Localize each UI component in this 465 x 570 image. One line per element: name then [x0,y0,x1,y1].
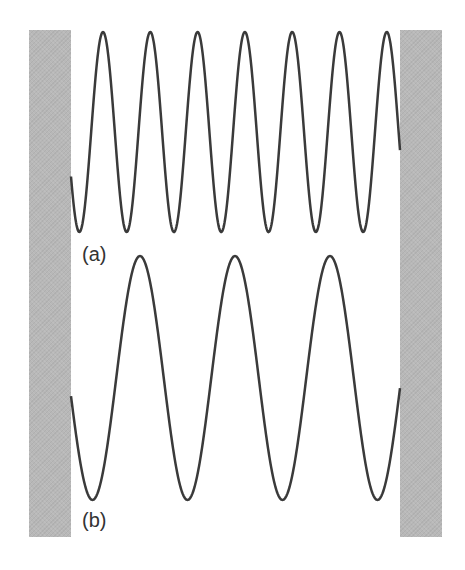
wave-b [71,256,400,500]
waves-canvas [0,0,465,570]
label-b: (b) [82,509,106,532]
wave-a [71,32,400,232]
label-a: (a) [82,243,106,266]
